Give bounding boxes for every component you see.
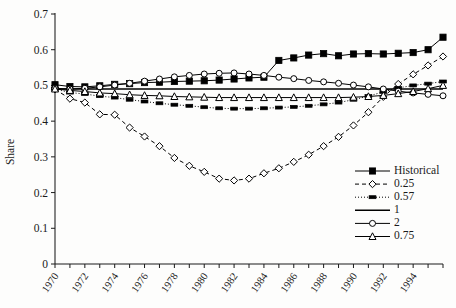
data-point-marker [141, 133, 148, 140]
data-point-marker [171, 74, 177, 80]
y-tick-label: 0.1 [34, 222, 49, 234]
data-point-marker [380, 51, 386, 57]
share-line-chart: 00.10.20.30.40.50.60.7197019721974197619… [0, 0, 456, 308]
x-tick-label: 1992 [368, 271, 389, 295]
data-point-marker [245, 175, 252, 182]
data-point-marker [305, 104, 312, 107]
data-point-marker [350, 82, 356, 88]
data-point-marker [186, 72, 192, 78]
x-tick-label: 1994 [398, 270, 419, 294]
data-point-marker [410, 49, 416, 55]
data-point-marker [370, 220, 376, 226]
y-tick-label: 0 [42, 258, 48, 270]
legend-item-0-57: 0.57 [355, 190, 414, 202]
data-series [51, 34, 446, 184]
data-point-marker [216, 70, 222, 76]
data-point-marker [156, 102, 163, 105]
data-point-marker [171, 103, 178, 106]
data-point-marker [425, 91, 431, 97]
data-point-marker [291, 76, 297, 82]
data-point-marker [231, 107, 238, 110]
x-tick-label: 1984 [249, 270, 270, 294]
data-point-marker [142, 78, 148, 84]
data-point-marker [201, 168, 208, 175]
legend-label: 0.75 [394, 229, 414, 241]
data-point-marker [230, 177, 237, 184]
data-point-marker [290, 158, 297, 165]
x-tick-label: 1980 [189, 271, 210, 295]
data-point-marker [410, 84, 417, 87]
legend-label: 1 [394, 203, 400, 215]
data-point-marker [306, 77, 312, 83]
data-point-marker [290, 105, 297, 108]
data-point-marker [369, 196, 376, 199]
y-tick-label: 0.6 [34, 44, 49, 56]
data-point-marker [126, 98, 133, 101]
data-point-marker [336, 80, 342, 86]
x-tick-label: 1986 [278, 271, 299, 295]
data-point-marker [306, 52, 312, 58]
x-tick-label: 1976 [129, 271, 150, 295]
data-point-marker [186, 78, 192, 84]
chart-legend: Historical0.250.57120.75 [355, 164, 439, 242]
x-tick-label: 1974 [99, 270, 120, 294]
data-point-marker [275, 106, 282, 109]
data-point-marker [321, 79, 327, 85]
data-point-marker [96, 111, 103, 118]
data-point-marker [440, 93, 446, 99]
legend-item-0-75: 0.75 [355, 229, 414, 241]
data-point-marker [275, 165, 282, 172]
data-point-marker [186, 104, 193, 107]
data-point-marker [216, 175, 223, 182]
legend-item-1: 1 [355, 203, 400, 215]
series-historical [52, 34, 446, 90]
data-point-marker [246, 71, 252, 77]
data-point-marker [335, 101, 342, 104]
data-point-marker [201, 78, 207, 84]
legend-label: 2 [394, 216, 400, 228]
x-tick-label: 1982 [219, 271, 240, 295]
data-point-marker [261, 107, 268, 110]
data-point-marker [246, 107, 253, 110]
y-tick-label: 0.4 [34, 115, 49, 127]
y-axis-title: Share [4, 139, 16, 165]
legend-label: 0.57 [394, 190, 414, 202]
legend-item-historical: Historical [355, 164, 439, 176]
data-point-marker [171, 154, 178, 161]
data-point-marker [127, 80, 133, 86]
data-point-marker [425, 47, 431, 53]
data-point-marker [321, 51, 327, 57]
data-point-marker [216, 107, 223, 110]
data-point-marker [261, 72, 267, 78]
x-tick-label: 1978 [159, 271, 180, 295]
legend-label: Historical [394, 164, 439, 176]
data-point-marker [410, 71, 417, 78]
legend-item-2: 2 [355, 216, 400, 228]
data-point-marker [369, 181, 376, 188]
data-point-marker [201, 106, 208, 109]
data-point-marker [365, 84, 371, 90]
data-point-marker [186, 162, 193, 169]
data-point-marker [276, 57, 282, 63]
data-point-marker [424, 62, 431, 69]
data-point-marker [320, 143, 327, 150]
data-point-marker [126, 124, 133, 131]
data-point-marker [156, 76, 162, 82]
data-point-marker [276, 74, 282, 80]
data-point-marker [320, 103, 327, 106]
x-tick-label: 1990 [338, 271, 359, 295]
x-tick-label: 1970 [40, 271, 61, 295]
chart-container: 00.10.20.30.40.50.60.7197019721974197619… [0, 0, 456, 308]
y-tick-label: 0.5 [34, 79, 49, 91]
data-point-marker [260, 170, 267, 177]
y-tick-label: 0.7 [34, 8, 49, 20]
data-point-marker [141, 100, 148, 103]
data-point-marker [369, 168, 375, 174]
data-point-marker [440, 34, 446, 40]
legend-item-0-25: 0.25 [355, 177, 414, 189]
data-point-marker [112, 82, 118, 88]
x-tick-label: 1972 [69, 271, 90, 295]
data-point-marker [365, 51, 371, 57]
data-point-marker [291, 55, 297, 61]
data-point-marker [439, 53, 446, 60]
